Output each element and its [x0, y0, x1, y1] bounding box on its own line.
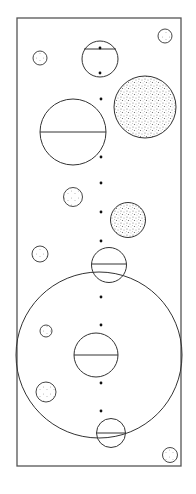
stippled-circle	[163, 448, 178, 463]
dot	[100, 382, 103, 385]
dot	[100, 211, 103, 214]
stippled-circle	[33, 51, 47, 65]
dot	[100, 182, 103, 185]
circles-diagram	[0, 0, 196, 494]
chord-circle-center	[74, 333, 118, 377]
dot	[100, 296, 103, 299]
dot	[100, 98, 103, 101]
dot	[100, 410, 103, 413]
stippled-circle	[32, 246, 48, 262]
stippled-circle-large	[114, 76, 176, 138]
stippled-circle-medium	[111, 203, 146, 238]
chord-circle	[82, 41, 118, 77]
dot	[99, 72, 102, 75]
dot	[100, 156, 103, 159]
dot	[100, 240, 103, 243]
stippled-circle	[64, 188, 83, 207]
chord-circle	[97, 419, 126, 448]
stippled-circle	[158, 29, 172, 43]
plain-circle	[40, 325, 52, 337]
chord-circle-large	[40, 99, 106, 165]
chord-circle	[92, 248, 127, 283]
dot	[99, 47, 102, 50]
stippled-circle	[36, 382, 56, 402]
dot-column	[99, 47, 103, 413]
dot	[100, 324, 103, 327]
